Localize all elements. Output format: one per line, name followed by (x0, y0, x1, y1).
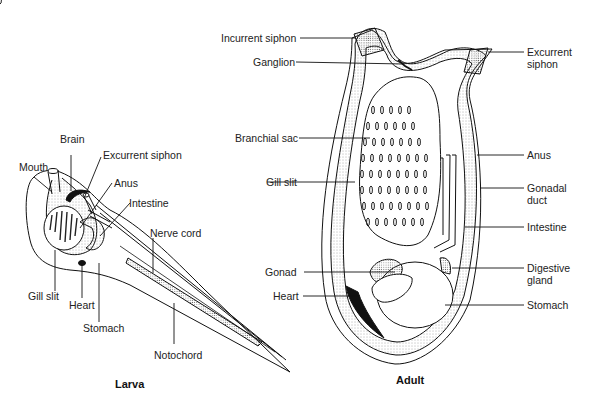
adult-gill-slits (0, 0, 1, 4)
label-larva-gill-slit: Gill slit (28, 290, 59, 302)
label-adult-excurrent-siphon-line1: Excurrent (527, 46, 572, 58)
label-adult-incurrent-siphon: Incurrent siphon (221, 32, 296, 44)
diagram-drawing (0, 0, 591, 407)
label-adult-intestine: Intestine (527, 221, 567, 233)
label-adult-digestive-gland-line1: Digestive (527, 262, 570, 274)
label-larva-heart: Heart (69, 299, 95, 311)
label-larva-stomach: Stomach (83, 322, 124, 334)
label-adult-branchial-sac: Branchial sac (235, 132, 298, 144)
label-adult-ganglion: Ganglion (253, 56, 295, 68)
label-adult-excurrent-siphon-line2: siphon (527, 58, 558, 70)
label-adult-digestive-gland-line2: gland (527, 274, 553, 286)
label-adult-gonadal-duct-line2: duct (527, 194, 547, 206)
tunicate-diagram: Mouth Brain Excurrent siphon Anus Intest… (0, 0, 591, 407)
label-larva-anus: Anus (114, 177, 138, 189)
label-larva-mouth: Mouth (19, 161, 48, 173)
label-adult-heart: Heart (273, 290, 299, 302)
label-adult-gill-slit: Gill slit (266, 176, 297, 188)
label-larva-nerve-cord: Nerve cord (150, 227, 201, 239)
label-adult-gonadal-duct-line1: Gonadal (527, 182, 567, 194)
adult-title: Adult (396, 374, 424, 386)
label-larva-excurrent-siphon: Excurrent siphon (103, 149, 182, 161)
adult-drawing (322, 28, 492, 364)
larva-title: Larva (115, 378, 144, 390)
label-adult-gonad: Gonad (265, 266, 297, 278)
label-larva-intestine: Intestine (129, 197, 169, 209)
label-adult-anus: Anus (527, 149, 551, 161)
label-larva-notochord: Notochord (154, 349, 202, 361)
label-adult-stomach: Stomach (527, 299, 568, 311)
label-larva-brain: Brain (60, 133, 85, 145)
